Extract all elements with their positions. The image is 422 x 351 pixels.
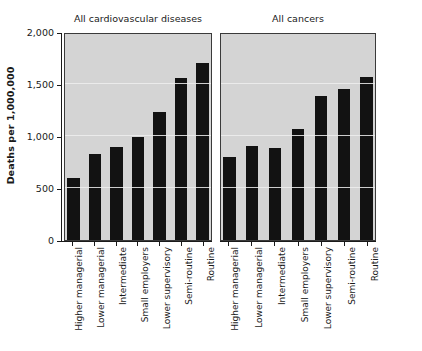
gridline [221, 135, 375, 136]
plot-area-cardiovascular [64, 33, 212, 241]
bar [246, 146, 259, 240]
gridline [221, 187, 375, 188]
x-axis-tick [292, 241, 305, 246]
gridline [221, 83, 375, 84]
bar [292, 129, 305, 240]
y-axis-tick-label: 1,500 [27, 80, 57, 90]
x-axis-tick [66, 241, 79, 246]
bar [196, 63, 209, 240]
y-axis-tick-label: 2,000 [27, 28, 57, 38]
x-axis-category-label: Routine [197, 247, 210, 347]
y-axis-title-text: Deaths per 1,000,000 [6, 66, 17, 184]
x-axis-category-text: Lower supervisory [163, 247, 172, 329]
panel-title-cardiovascular: All cardiovascular diseases [64, 13, 212, 24]
x-axis-category-label: Higher managerial [222, 247, 235, 347]
panel-cardiovascular: All cardiovascular diseases [64, 33, 212, 241]
x-axis-tick [269, 241, 282, 246]
x-axis-category-text: Higher managerial [231, 247, 240, 331]
x-axis-category-text: Lower supervisory [324, 247, 333, 329]
x-axis-tick [222, 241, 235, 246]
x-axis-category-label: Small employers [292, 247, 305, 347]
y-axis-title: Deaths per 1,000,000 [2, 0, 20, 250]
x-axis-category-text: Higher managerial [75, 247, 84, 331]
x-axis-category-text: Semi-routine [348, 247, 357, 305]
bar-group-cancers [221, 34, 375, 240]
x-axis-labels-cancers: Higher managerialLower managerialInterme… [220, 247, 376, 347]
x-axis-category-label: Lower managerial [245, 247, 258, 347]
x-axis-category-text: Routine [371, 247, 380, 281]
x-axis-tick [315, 241, 328, 246]
plot-area-cancers [220, 33, 376, 241]
x-axis-category-label: Small employers [132, 247, 145, 347]
x-axis-category-label: Lower supervisory [315, 247, 328, 347]
bar [89, 154, 102, 240]
x-axis-tick [245, 241, 258, 246]
panel-cancers: All cancers [220, 33, 376, 241]
x-axis-ticks-cardiovascular [64, 241, 212, 246]
x-axis-category-text: Intermediate [278, 247, 287, 305]
bar [175, 78, 188, 240]
x-axis-category-text: Lower managerial [97, 247, 106, 328]
x-axis-category-label: Lower supervisory [154, 247, 167, 347]
x-axis-category-text: Small employers [301, 247, 310, 322]
gridline [65, 187, 211, 188]
x-axis-category-label: Routine [362, 247, 375, 347]
x-axis-tick [338, 241, 351, 246]
gridline [65, 83, 211, 84]
x-axis-category-text: Semi-routine [185, 247, 194, 305]
x-axis-category-text: Small employers [141, 247, 150, 322]
y-axis-tick-label: 500 [36, 184, 57, 194]
y-axis-tick-label: 1,000 [27, 132, 57, 142]
panel-title-cancers: All cancers [220, 13, 376, 24]
y-axis-tick-label: 0 [48, 236, 57, 246]
x-axis-tick [197, 241, 210, 246]
bar [223, 157, 236, 240]
x-axis-tick [362, 241, 375, 246]
bar [338, 89, 351, 240]
x-axis-category-text: Intermediate [119, 247, 128, 305]
bar [269, 148, 282, 240]
x-axis-category-label: Semi-routine [176, 247, 189, 347]
bar [132, 137, 145, 240]
bar [360, 77, 373, 240]
bar [315, 96, 328, 240]
bar-group-cardiovascular [65, 34, 211, 240]
x-axis-category-label: Semi-routine [338, 247, 351, 347]
x-axis-category-text: Lower managerial [255, 247, 264, 328]
x-axis-ticks-cancers [220, 241, 376, 246]
x-axis-category-label: Intermediate [110, 247, 123, 347]
bar-chart-figure: Deaths per 1,000,000 05001,0001,5002,000… [0, 0, 422, 351]
x-axis-tick [88, 241, 101, 246]
x-axis-category-label: Intermediate [269, 247, 282, 347]
gridline [65, 135, 211, 136]
y-axis-ticks: 05001,0001,5002,000 [20, 33, 61, 241]
x-axis-tick [132, 241, 145, 246]
x-axis-category-label: Lower managerial [88, 247, 101, 347]
x-axis-labels-cardiovascular: Higher managerialLower managerialInterme… [64, 247, 212, 347]
y-axis-spine [61, 33, 62, 242]
bar [110, 147, 123, 240]
bar [153, 112, 166, 240]
x-axis-tick [110, 241, 123, 246]
x-axis-tick [154, 241, 167, 246]
x-axis-category-text: Routine [207, 247, 216, 281]
x-axis-tick [176, 241, 189, 246]
x-axis-category-label: Higher managerial [66, 247, 79, 347]
